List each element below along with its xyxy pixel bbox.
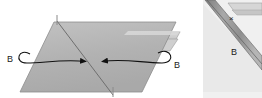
detail-second-flap [232,10,262,15]
main-fold-panel: B B [0,0,196,98]
figure-root: B B × B [0,0,262,98]
detail-inset-panel: × B [203,0,262,98]
cross-mark-x: × [229,14,234,23]
folding-diagram-svg: B B × B [0,0,262,98]
label-b-right: B [174,60,180,70]
sheet-top-sliver [124,31,181,35]
label-b-left: B [7,54,13,64]
label-b-detail: B [231,47,237,57]
